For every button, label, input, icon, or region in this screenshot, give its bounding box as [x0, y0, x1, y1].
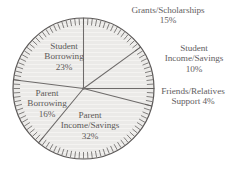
pie-label-friends-relatives-support: Friends/Relatives Support 4% [150, 86, 236, 107]
pie-label-student-income-savings-line1: Student [180, 43, 208, 53]
pie-label-student-income-savings: Student Income/Savings 10% [152, 43, 236, 74]
pie-label-friends-relatives-support-line1: Friends/Relatives [161, 86, 224, 96]
pie-label-student-borrowing: Student Borrowing 23% [33, 41, 95, 72]
pie-label-grants-scholarships-value: 15% [160, 15, 177, 25]
pie-label-parent-borrowing-line2: Borrowing [27, 98, 66, 108]
pie-label-parent-borrowing-line1: Parent [35, 88, 58, 98]
pie-label-grants-scholarships: Grants/Scholarships 15% [104, 5, 232, 26]
pie-label-student-borrowing-line2: Borrowing [44, 51, 83, 61]
pie-label-parent-income-savings: Parent Income/Savings 32% [52, 110, 128, 141]
pie-label-parent-income-savings-line1: Parent [78, 110, 101, 120]
pie-label-student-borrowing-line1: Student [50, 41, 78, 51]
pie-chart-figure: Grants/Scholarships 15% Student Income/S… [0, 0, 236, 170]
pie-label-parent-income-savings-value: 32% [82, 131, 99, 141]
pie-label-student-borrowing-value: 23% [56, 62, 73, 72]
pie-label-grants-scholarships-line1: Grants/Scholarships [131, 5, 204, 15]
pie-label-parent-income-savings-line2: Income/Savings [61, 120, 120, 130]
pie-label-student-income-savings-line2: Income/Savings [165, 53, 224, 63]
pie-label-friends-relatives-support-value: Support 4% [171, 96, 214, 106]
pie-label-student-income-savings-value: 10% [186, 64, 203, 74]
